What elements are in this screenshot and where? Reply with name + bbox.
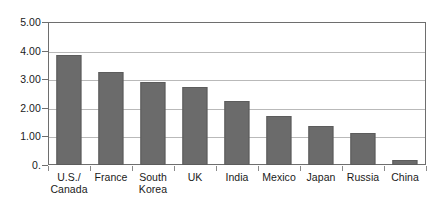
bar-slot bbox=[258, 22, 300, 165]
bar-slot bbox=[174, 22, 216, 165]
x-axis-category-label: U.S./Canada bbox=[48, 171, 90, 195]
x-axis-category-label: Japan bbox=[300, 171, 342, 183]
bar-slot bbox=[384, 22, 426, 165]
x-axis-category-label-line: South bbox=[132, 171, 174, 183]
y-axis-labels: 5.004.003.002.001.000. bbox=[0, 0, 41, 208]
x-axis-category-label-line: India bbox=[216, 171, 258, 183]
x-axis-category-label-line: U.S./ bbox=[48, 171, 90, 183]
y-axis-tick-label: 1.00 bbox=[0, 131, 41, 142]
x-axis-labels: U.S./CanadaFranceSouthKoreaUKIndiaMexico… bbox=[48, 171, 426, 206]
x-axis-category-label-line: UK bbox=[174, 171, 216, 183]
bar[interactable] bbox=[350, 133, 375, 165]
bar-slot bbox=[216, 22, 258, 165]
x-axis-category-label-line: China bbox=[384, 171, 426, 183]
bar-slot bbox=[132, 22, 174, 165]
bar-slot bbox=[48, 22, 90, 165]
bar-chart: 5.004.003.002.001.000. U.S./CanadaFrance… bbox=[0, 0, 433, 208]
bar[interactable] bbox=[98, 72, 123, 165]
x-axis-tick-mark bbox=[426, 166, 427, 171]
x-axis-category-label: Russia bbox=[342, 171, 384, 183]
x-axis-category-label-line: France bbox=[90, 171, 132, 183]
bar[interactable] bbox=[140, 82, 165, 166]
x-axis-category-label-line: Japan bbox=[300, 171, 342, 183]
bar-slot bbox=[342, 22, 384, 165]
y-axis-tick-label: 2.00 bbox=[0, 103, 41, 114]
x-axis-category-label: SouthKorea bbox=[132, 171, 174, 195]
bar[interactable] bbox=[56, 55, 81, 165]
bar-slot bbox=[300, 22, 342, 165]
bar[interactable] bbox=[224, 101, 249, 165]
bar[interactable] bbox=[182, 87, 207, 165]
x-axis-category-label-line: Canada bbox=[48, 183, 90, 195]
y-axis-tick-label: 4.00 bbox=[0, 45, 41, 56]
bar[interactable] bbox=[392, 160, 417, 165]
y-axis-tick-label: 0. bbox=[0, 160, 41, 171]
bar-slot bbox=[90, 22, 132, 165]
bar[interactable] bbox=[308, 126, 333, 165]
x-axis-category-label: France bbox=[90, 171, 132, 183]
x-axis-category-label: UK bbox=[174, 171, 216, 183]
x-axis-category-label-line: Korea bbox=[132, 183, 174, 195]
y-axis-tick-label: 3.00 bbox=[0, 74, 41, 85]
x-axis-category-label: China bbox=[384, 171, 426, 183]
bar[interactable] bbox=[266, 116, 291, 165]
x-axis-category-label-line: Mexico bbox=[258, 171, 300, 183]
x-axis-category-label-line: Russia bbox=[342, 171, 384, 183]
bars-layer bbox=[48, 22, 426, 165]
y-axis-tick-label: 5.00 bbox=[0, 17, 41, 28]
x-axis-category-label: Mexico bbox=[258, 171, 300, 183]
x-axis-category-label: India bbox=[216, 171, 258, 183]
